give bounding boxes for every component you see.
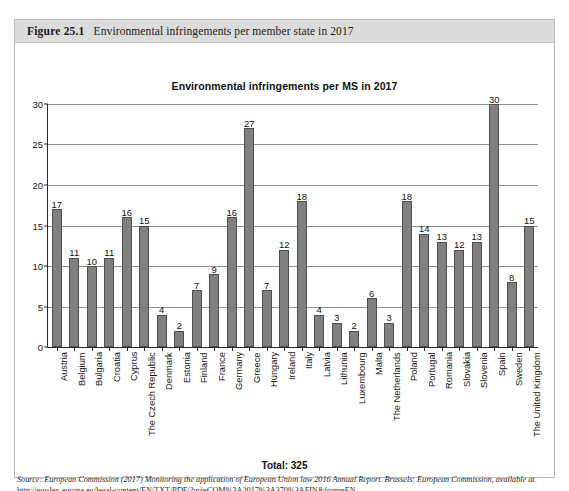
x-label-slot: Bulgaria <box>83 352 101 434</box>
x-tick-mark <box>477 347 478 351</box>
x-tick-mark <box>232 347 233 351</box>
x-tick-mark <box>337 347 338 351</box>
bar[interactable]: 16 <box>122 217 132 347</box>
y-tick-label: 0 <box>38 342 43 353</box>
bar[interactable]: 18 <box>297 201 307 347</box>
x-tick-mark <box>389 347 390 351</box>
x-tick-mark <box>92 347 93 351</box>
x-tick-slot <box>276 347 294 351</box>
x-tick-slot <box>241 347 259 351</box>
bar-slot: 2 <box>171 104 189 347</box>
bar-value-label: 12 <box>279 240 290 250</box>
x-tick-slot <box>311 347 329 351</box>
bar[interactable]: 8 <box>507 282 517 347</box>
bar[interactable]: 16 <box>227 217 237 347</box>
bar-value-label: 8 <box>509 273 514 283</box>
bar-value-label: 15 <box>524 216 535 226</box>
bar-slot: 13 <box>433 104 451 347</box>
x-tick-slot <box>101 347 119 351</box>
bar-value-label: 11 <box>104 248 114 258</box>
x-label-slot: Romania <box>433 352 451 434</box>
bar-value-label: 6 <box>369 289 374 299</box>
x-tick-mark <box>459 347 460 351</box>
chart-title: Environmental infringements per MS in 20… <box>15 80 554 92</box>
x-tick-slot <box>521 347 539 351</box>
bar-slot: 13 <box>468 104 486 347</box>
bar-value-label: 2 <box>352 321 357 331</box>
bar-value-label: 30 <box>489 95 500 105</box>
x-label-slot: Hungary <box>258 352 276 434</box>
x-tick-slot <box>223 347 241 351</box>
source-url[interactable]: http://eur-lex.europa.eu/legal-content/E… <box>17 486 356 491</box>
bar[interactable]: 4 <box>314 315 324 347</box>
bar[interactable]: 14 <box>419 234 429 347</box>
bar[interactable]: 13 <box>472 242 482 347</box>
bar[interactable]: 2 <box>174 331 184 347</box>
bar[interactable]: 27 <box>244 128 254 347</box>
bar-value-label: 7 <box>194 281 199 291</box>
y-tick-label: 30 <box>32 99 43 110</box>
bar[interactable]: 13 <box>437 242 447 347</box>
bar-slot: 7 <box>188 104 206 347</box>
x-tick-slot <box>293 347 311 351</box>
x-tick-slot <box>416 347 434 351</box>
bar-value-label: 3 <box>334 313 339 323</box>
bar-value-label: 4 <box>317 305 322 315</box>
x-label-slot: Italy <box>293 352 311 434</box>
bar[interactable]: 4 <box>157 315 167 347</box>
bar-slot: 15 <box>521 104 539 347</box>
bar[interactable]: 3 <box>384 323 394 347</box>
bar[interactable]: 3 <box>332 323 342 347</box>
bar-slot: 17 <box>48 104 66 347</box>
bar-slot: 2 <box>346 104 364 347</box>
bar-slot: 14 <box>416 104 434 347</box>
x-tick-mark <box>179 347 180 351</box>
x-tick-mark <box>127 347 128 351</box>
x-tick-slot <box>48 347 66 351</box>
bar-value-label: 4 <box>159 305 164 315</box>
bar[interactable]: 2 <box>349 331 359 347</box>
bar-value-label: 27 <box>244 119 255 129</box>
bar-value-label: 18 <box>401 192 412 202</box>
x-label-slot: Portugal <box>416 352 434 434</box>
bar[interactable]: 10 <box>87 266 97 347</box>
bar[interactable]: 6 <box>367 298 377 347</box>
bar[interactable]: 17 <box>52 209 62 347</box>
x-tick-mark <box>197 347 198 351</box>
bar-slot: 18 <box>293 104 311 347</box>
bar[interactable]: 9 <box>209 274 219 347</box>
x-tick-mark <box>144 347 145 351</box>
bar-slot: 9 <box>206 104 224 347</box>
bar[interactable]: 11 <box>104 258 114 347</box>
bar[interactable]: 11 <box>69 258 79 347</box>
x-tick-slot <box>381 347 399 351</box>
x-label-slot: Slovakia <box>451 352 469 434</box>
bar[interactable]: 18 <box>402 201 412 347</box>
x-label-slot: The United Kingdom <box>521 352 539 434</box>
bar-slot: 8 <box>503 104 521 347</box>
x-tick-slot <box>398 347 416 351</box>
bar[interactable]: 30 <box>489 104 499 347</box>
bar[interactable]: 12 <box>454 250 464 347</box>
bar-slot: 12 <box>276 104 294 347</box>
bar-slot: 15 <box>136 104 154 347</box>
x-tick-mark <box>57 347 58 351</box>
x-axis-category-label: The United Kingdom <box>533 352 542 437</box>
bar[interactable]: 15 <box>524 226 534 348</box>
x-label-slot: Poland <box>398 352 416 434</box>
bar[interactable]: 7 <box>192 290 202 347</box>
plot-area: 051015202530 171110111615427916277121843… <box>48 104 538 347</box>
x-label-slot: Greece <box>241 352 259 434</box>
bar-slot: 4 <box>311 104 329 347</box>
bar-slot: 12 <box>451 104 469 347</box>
y-tick-label: 5 <box>38 301 43 312</box>
bar[interactable]: 15 <box>139 226 149 348</box>
y-tick-label: 20 <box>32 179 43 190</box>
bar[interactable]: 7 <box>262 290 272 347</box>
x-tick-slot <box>83 347 101 351</box>
bar-value-label: 15 <box>139 216 150 226</box>
bar-slot: 4 <box>153 104 171 347</box>
x-label-slot: Cyprus <box>118 352 136 434</box>
bar-slot: 30 <box>486 104 504 347</box>
bar[interactable]: 12 <box>279 250 289 347</box>
